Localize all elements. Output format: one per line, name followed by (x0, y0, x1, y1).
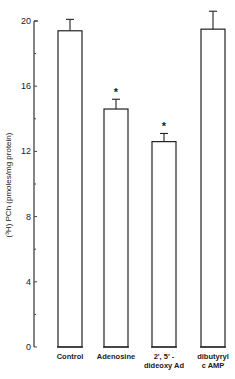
y-tick-label: 20 (21, 16, 31, 26)
y-tick-label: 0 (26, 342, 31, 352)
y-axis: 048121620 (21, 16, 38, 352)
y-tick-label: 16 (21, 81, 31, 91)
x-tick-label: dideoxy Ad (144, 361, 185, 370)
x-axis-labels: ControlAdenosine2', 5' -dideoxy Addibuty… (57, 352, 229, 370)
y-tick-label: 4 (26, 277, 31, 287)
bar-chart: 048121620 (³H) PCh (pmoles/mg protein) *… (0, 0, 235, 379)
x-tick-label: Adenosine (97, 352, 135, 361)
significance-marker: * (114, 86, 119, 98)
y-tick-label: 12 (21, 146, 31, 156)
x-tick-label: dibutyryl (197, 352, 229, 361)
y-axis-title: (³H) PCh (pmoles/mg protein) (4, 132, 13, 237)
x-tick-label: Control (57, 352, 84, 361)
bars: ** (57, 11, 226, 347)
x-tick-label: 2', 5' - (154, 352, 175, 361)
x-tick-label: c AMP (202, 361, 225, 370)
y-axis-label: (³H) PCh (pmoles/mg protein) (4, 132, 13, 237)
significance-marker: * (162, 120, 167, 132)
y-tick-label: 8 (26, 212, 31, 222)
bar-dibutyryl-camp (201, 11, 225, 347)
bar-2-5-dideoxy-ad: * (152, 120, 176, 347)
bar-adenosine: * (104, 86, 128, 347)
bar-control (58, 19, 82, 347)
